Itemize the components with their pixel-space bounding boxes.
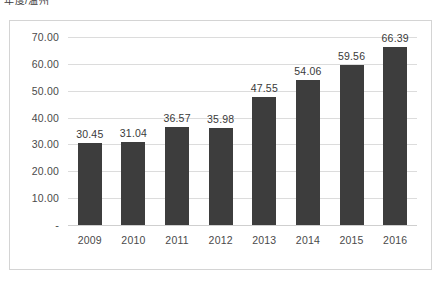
bar-slot: 47.552013 <box>243 37 287 225</box>
bar[interactable] <box>78 143 102 225</box>
y-axis-tick-label: 10.00 <box>32 192 59 204</box>
bar-slot: 59.562015 <box>330 37 374 225</box>
bar-value-label: 59.56 <box>338 50 365 62</box>
bar[interactable] <box>383 47 407 225</box>
bar[interactable] <box>209 128 233 225</box>
y-axis-tick-label: 30.00 <box>32 138 59 150</box>
chart-frame: 70.0060.0050.0040.0030.0020.0010.00- 30.… <box>9 20 432 270</box>
bar[interactable] <box>252 97 276 225</box>
bar-value-label: 54.06 <box>294 65 321 77</box>
bar-value-label: 31.04 <box>120 127 147 139</box>
y-axis-tick-label: 50.00 <box>32 85 59 97</box>
y-axis-tick-label: 20.00 <box>32 165 59 177</box>
bar-slot: 66.392016 <box>373 37 417 225</box>
plot-area: 70.0060.0050.0040.0030.0020.0010.00- 30.… <box>68 37 417 225</box>
bar-slot: 30.452009 <box>68 37 112 225</box>
gridline <box>68 225 417 226</box>
bar-slot: 31.042010 <box>112 37 156 225</box>
bar-value-label: 30.45 <box>76 128 103 140</box>
x-axis-tick-label: 2014 <box>296 234 320 246</box>
y-axis-tick-label: - <box>55 219 59 231</box>
bar[interactable] <box>340 65 364 225</box>
bar-value-label: 36.57 <box>163 112 190 124</box>
bar-chart: 年度/温州 70.0060.0050.0040.0030.0020.0010.0… <box>0 0 444 281</box>
x-axis-tick-label: 2009 <box>78 234 102 246</box>
y-axis-tick-label: 70.00 <box>32 31 59 43</box>
x-axis-tick-label: 2013 <box>252 234 276 246</box>
bar-slot: 35.982012 <box>199 37 243 225</box>
x-axis-tick-label: 2010 <box>121 234 145 246</box>
x-axis-tick-label: 2012 <box>209 234 233 246</box>
x-axis-tick-label: 2011 <box>165 234 188 246</box>
bars-layer: 30.45200931.04201036.57201135.98201247.5… <box>68 37 417 225</box>
bar[interactable] <box>165 127 189 225</box>
bar[interactable] <box>296 80 320 225</box>
bar-value-label: 47.55 <box>251 82 278 94</box>
chart-title: 年度/温州 <box>4 0 204 8</box>
x-axis-tick-label: 2015 <box>339 234 363 246</box>
bar[interactable] <box>121 142 145 225</box>
y-axis-tick-label: 40.00 <box>32 112 59 124</box>
bar-slot: 54.062014 <box>286 37 330 225</box>
bar-slot: 36.572011 <box>155 37 199 225</box>
y-axis-tick-label: 60.00 <box>32 58 59 70</box>
x-axis-tick-label: 2016 <box>383 234 407 246</box>
bar-value-label: 35.98 <box>207 113 234 125</box>
bar-value-label: 66.39 <box>382 32 409 44</box>
